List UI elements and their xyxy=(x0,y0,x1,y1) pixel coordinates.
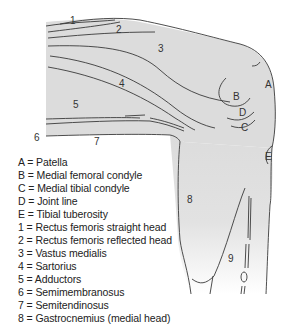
legend: A = Patella B = Medial femoral condyle C… xyxy=(18,156,172,324)
label-9: 9 xyxy=(228,253,234,264)
label-4: 4 xyxy=(119,78,125,89)
legend-item: 5 = Adductors xyxy=(18,273,172,286)
label-C: C xyxy=(241,122,248,133)
label-2: 2 xyxy=(116,24,122,35)
label-B: B xyxy=(233,91,240,102)
legend-item: 6 = Semimembranosus xyxy=(18,286,172,299)
legend-item: 1 = Rectus femoris straight head xyxy=(18,221,172,234)
legend-item: B = Medial femoral condyle xyxy=(18,169,172,182)
label-E: E xyxy=(265,151,272,162)
label-A: A xyxy=(265,79,272,90)
label-5: 5 xyxy=(73,99,79,110)
label-1: 1 xyxy=(70,15,76,26)
legend-item: A = Patella xyxy=(18,156,172,169)
legend-item: 7 = Semitendinosus xyxy=(18,299,172,312)
legend-item: 2 = Rectus femoris reflected head xyxy=(18,234,172,247)
leg-outline xyxy=(170,135,273,294)
label-D: D xyxy=(239,107,246,118)
legend-item: C = Medial tibial condyle xyxy=(18,182,172,195)
legend-item: E = Tibial tuberosity xyxy=(18,208,172,221)
label-6: 6 xyxy=(34,132,40,143)
legend-item: D = Joint line xyxy=(18,195,172,208)
label-7: 7 xyxy=(94,136,100,147)
legend-item: 8 = Gastrocnemius (medial head) xyxy=(18,312,172,324)
label-3: 3 xyxy=(158,43,164,54)
legend-item: 4 = Sartorius xyxy=(18,260,172,273)
label-8: 8 xyxy=(187,194,193,205)
legend-item: 3 = Vastus medialis xyxy=(18,247,172,260)
